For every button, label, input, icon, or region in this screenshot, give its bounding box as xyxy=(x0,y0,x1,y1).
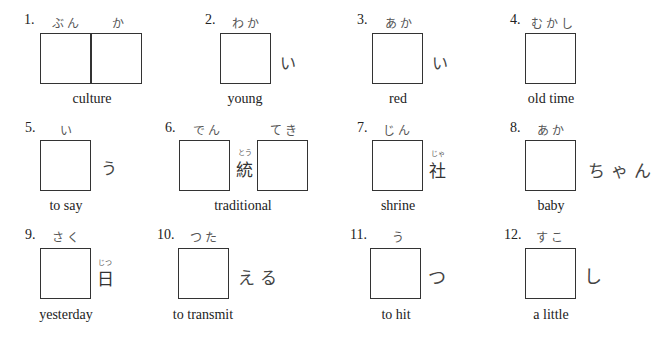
item-number: 8. xyxy=(510,120,521,136)
english-meaning: to hit xyxy=(336,307,456,323)
answer-box[interactable] xyxy=(220,33,271,84)
item-number: 7. xyxy=(357,120,368,136)
english-meaning: culture xyxy=(32,91,152,107)
item-number: 10. xyxy=(157,227,175,243)
answer-box[interactable] xyxy=(372,140,423,191)
english-meaning: old time xyxy=(491,91,611,107)
answer-box[interactable] xyxy=(525,248,576,299)
item-number: 2. xyxy=(205,12,216,28)
reading: か xyxy=(112,14,127,31)
item-number: 4. xyxy=(510,12,521,28)
reading: あか xyxy=(537,121,567,138)
answer-box[interactable] xyxy=(40,248,91,299)
answer-box[interactable] xyxy=(372,33,423,84)
reading: つた xyxy=(190,228,220,245)
reading: ぶん xyxy=(52,14,82,31)
item-number: 6. xyxy=(165,120,176,136)
english-meaning: baby xyxy=(491,198,611,214)
english-meaning: to say xyxy=(6,198,126,214)
item-number: 12. xyxy=(504,227,522,243)
okurigana: し xyxy=(584,262,606,288)
english-meaning: traditional xyxy=(183,198,303,214)
given-kanji: 統 xyxy=(236,156,253,181)
reading: わか xyxy=(232,14,262,31)
answer-box[interactable] xyxy=(525,33,576,84)
english-meaning: to transmit xyxy=(143,307,263,323)
answer-box[interactable] xyxy=(257,140,308,191)
answer-box[interactable] xyxy=(370,248,421,299)
item-number: 9. xyxy=(25,227,36,243)
english-meaning: young xyxy=(185,91,305,107)
answer-box[interactable] xyxy=(178,248,229,299)
reading: あか xyxy=(385,14,415,31)
okurigana: い xyxy=(432,50,452,74)
okurigana: える xyxy=(238,264,283,289)
reading: てき xyxy=(270,121,300,138)
english-meaning: red xyxy=(338,91,458,107)
english-meaning: shrine xyxy=(338,198,458,214)
reading: じん xyxy=(383,121,413,138)
item-number: 3. xyxy=(357,12,368,28)
answer-box[interactable] xyxy=(40,140,91,191)
english-meaning: a little xyxy=(491,307,611,323)
okurigana: い xyxy=(280,50,300,74)
answer-box[interactable] xyxy=(40,33,91,84)
answer-box[interactable] xyxy=(179,140,230,191)
reading: すこ xyxy=(536,228,566,245)
reading: う xyxy=(392,228,407,245)
item-number: 11. xyxy=(350,227,367,243)
reading: でん xyxy=(193,121,223,138)
reading: さく xyxy=(52,228,82,245)
item-number: 5. xyxy=(25,120,36,136)
given-kanji: 日 xyxy=(97,265,114,290)
okurigana: ちゃん xyxy=(588,157,657,182)
okurigana: う xyxy=(101,155,121,179)
answer-box[interactable] xyxy=(525,140,576,191)
okurigana: つ xyxy=(428,263,450,289)
answer-box[interactable] xyxy=(91,33,142,84)
given-kanji: 社 xyxy=(429,157,446,182)
item-number: 1. xyxy=(24,12,35,28)
english-meaning: yesterday xyxy=(6,307,126,323)
reading: い xyxy=(60,121,75,138)
reading: むかし xyxy=(531,14,576,31)
